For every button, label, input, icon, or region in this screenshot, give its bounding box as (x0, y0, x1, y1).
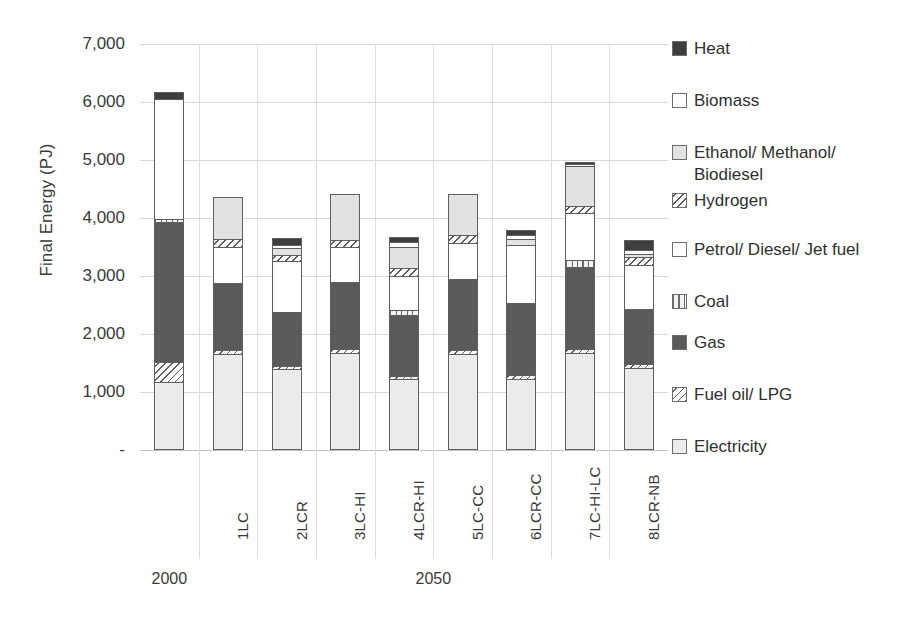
legend-item[interactable]: Coal (672, 291, 729, 313)
y-tick-label: 1,000 (55, 383, 125, 400)
x-group-label: 2050 (383, 570, 483, 588)
legend-item[interactable]: Heat (672, 38, 730, 60)
x-tick-label: 1LC (234, 512, 251, 540)
legend-item[interactable]: Petrol/ Diesel/ Jet fuel (672, 239, 859, 261)
stacked-bar-chart: Final Energy (PJ) 7,0006,0005,0004,0003,… (0, 0, 924, 635)
legend-label: Coal (694, 291, 729, 313)
y-tick-label: 5,000 (55, 151, 125, 168)
x-tick-label: 4LCR-HI (410, 480, 427, 540)
legend-item[interactable]: Fuel oil/ LPG (672, 384, 792, 406)
y-axis-title: Final Energy (PJ) (37, 95, 57, 325)
legend-swatch-icon (672, 93, 687, 108)
category-separator (199, 44, 200, 559)
legend-swatch-icon (672, 335, 687, 350)
x-tick-label: 8LCR-NB (645, 474, 662, 540)
category-separator (492, 44, 493, 559)
legend-swatch-icon (672, 145, 687, 160)
x-group-label: 2000 (119, 570, 219, 588)
legend-item[interactable]: Electricity (672, 436, 767, 458)
legend-swatch-icon (672, 439, 687, 454)
legend-item[interactable]: Ethanol/ Methanol/ Biodiesel (672, 142, 909, 186)
legend-label: Electricity (694, 436, 767, 458)
legend-swatch-icon (672, 41, 687, 56)
y-tick-label: - (55, 441, 125, 458)
x-tick-label: 5LC-CC (469, 485, 486, 540)
x-tick-label: 2LCR (293, 501, 310, 540)
legend-label: Petrol/ Diesel/ Jet fuel (694, 239, 859, 261)
legend-label: Fuel oil/ LPG (694, 384, 792, 406)
legend-swatch-icon (672, 193, 687, 208)
x-tick-label: 6LCR-CC (527, 474, 544, 540)
legend-label: Heat (694, 38, 730, 60)
y-tick-label: 7,000 (55, 35, 125, 52)
y-tick-label: 3,000 (55, 267, 125, 284)
category-separator (551, 44, 552, 559)
legend-item[interactable]: Hydrogen (672, 190, 768, 212)
x-tick-label: 3LC-HI (351, 491, 368, 540)
category-separator (433, 44, 434, 559)
legend-swatch-icon (672, 294, 687, 309)
legend-label: Hydrogen (694, 190, 768, 212)
legend-swatch-icon (672, 242, 687, 257)
x-tick-label: 7LC-HI-LC (586, 467, 603, 540)
category-separator (609, 44, 610, 559)
category-separator (257, 44, 258, 559)
y-tick-label: 2,000 (55, 325, 125, 342)
legend-label: Biomass (694, 90, 759, 112)
legend-swatch-icon (672, 387, 687, 402)
legend-label: Gas (694, 332, 725, 354)
category-separator (375, 44, 376, 559)
y-tick-label: 6,000 (55, 93, 125, 110)
y-tick-label: 4,000 (55, 209, 125, 226)
legend-item[interactable]: Biomass (672, 90, 759, 112)
legend-item[interactable]: Gas (672, 332, 725, 354)
legend-label: Ethanol/ Methanol/ Biodiesel (694, 142, 909, 186)
category-separator (316, 44, 317, 559)
